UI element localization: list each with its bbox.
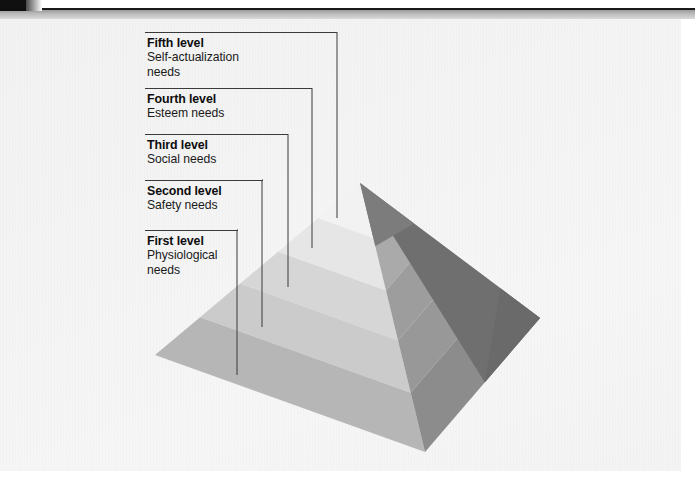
label-desc-line1-level-5: Self-actualization bbox=[147, 50, 239, 64]
leader-line-level-2 bbox=[262, 180, 263, 327]
label-title-level-2: Second level bbox=[147, 184, 222, 198]
leader-lines bbox=[0, 0, 695, 479]
label-level-3: Third levelSocial needs bbox=[147, 138, 216, 167]
label-title-level-1: First level bbox=[147, 234, 217, 248]
label-title-level-3: Third level bbox=[147, 138, 216, 152]
label-rule-level-1 bbox=[145, 230, 238, 231]
label-title-level-5: Fifth level bbox=[147, 36, 239, 50]
label-level-1: First levelPhysiologicalneeds bbox=[147, 234, 217, 277]
label-desc-line2-level-1: needs bbox=[147, 263, 217, 277]
label-rule-level-4 bbox=[145, 88, 312, 89]
label-title-level-4: Fourth level bbox=[147, 92, 224, 106]
label-rule-level-5 bbox=[145, 32, 337, 33]
label-rule-level-3 bbox=[145, 134, 288, 135]
label-level-2: Second levelSafety needs bbox=[147, 184, 222, 213]
figure-page: Fifth levelSelf-actualizationneedsFourth… bbox=[0, 0, 695, 479]
leader-line-level-1 bbox=[237, 230, 238, 375]
label-desc-line1-level-4: Esteem needs bbox=[147, 106, 224, 120]
label-level-4: Fourth levelEsteem needs bbox=[147, 92, 224, 121]
label-desc-line1-level-2: Safety needs bbox=[147, 198, 222, 212]
label-desc-line1-level-1: Physiological bbox=[147, 248, 217, 262]
label-rule-level-2 bbox=[145, 180, 263, 181]
label-desc-line2-level-5: needs bbox=[147, 65, 239, 79]
label-desc-line1-level-3: Social needs bbox=[147, 152, 216, 166]
label-level-5: Fifth levelSelf-actualizationneeds bbox=[147, 36, 239, 79]
